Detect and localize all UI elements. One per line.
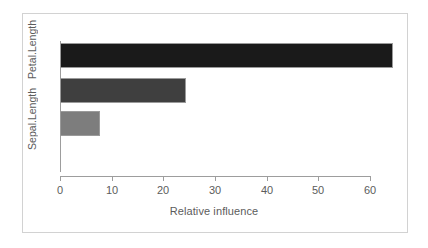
x-tick-label-40: 40: [261, 184, 273, 196]
x-tick-50: [318, 176, 319, 181]
x-tick-20: [163, 176, 164, 181]
x-tick-10: [112, 176, 113, 181]
x-tick-label-30: 30: [209, 184, 221, 196]
bar-sepal-width: [60, 78, 186, 103]
x-tick-label-60: 60: [364, 184, 376, 196]
x-tick-label-0: 0: [57, 184, 63, 196]
x-tick-label-20: 20: [157, 184, 169, 196]
y-axis-label-petal-length: Petal.Length: [26, 20, 38, 79]
x-tick-30: [215, 176, 216, 181]
x-axis-line: 0 10 20 30 40 50 60: [60, 176, 371, 177]
chart-figure: Petal.Length Sepal.Length 0 10 20 30 40 …: [0, 0, 428, 248]
bar-petal-length: [60, 43, 393, 68]
x-tick-label-50: 50: [312, 184, 324, 196]
x-axis-title: Relative influence: [0, 205, 428, 217]
x-tick-40: [267, 176, 268, 181]
bar-sepal-length: [60, 111, 100, 136]
plot-panel: [60, 36, 380, 168]
y-axis-label-sepal-length: Sepal.Length: [26, 88, 38, 150]
x-tick-60: [370, 176, 371, 181]
x-tick-0: [60, 176, 61, 181]
x-tick-label-10: 10: [106, 184, 118, 196]
